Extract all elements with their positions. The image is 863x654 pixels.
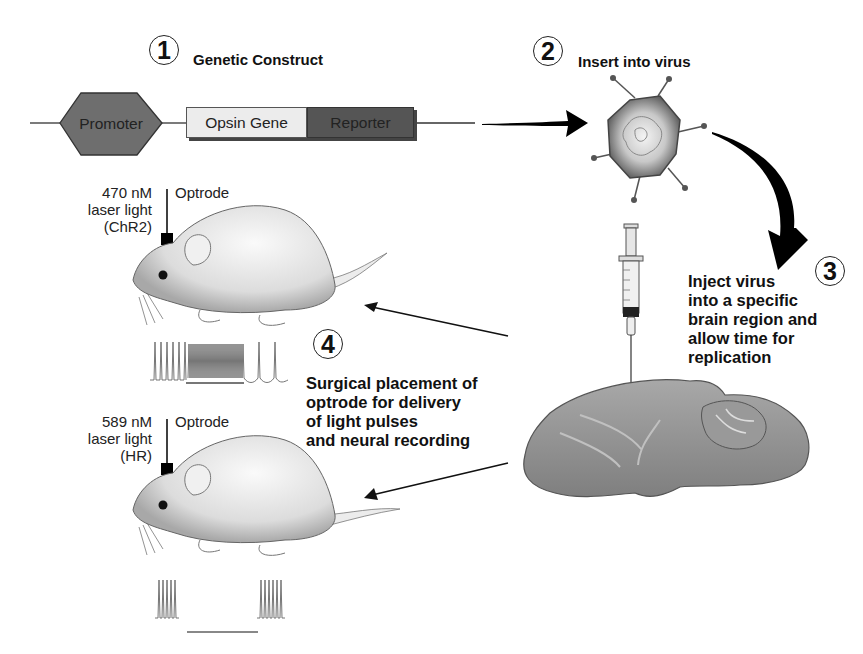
virus-icon [580, 72, 720, 212]
step-2-badge: 2 [533, 36, 563, 66]
mouse-top-light-bar [186, 382, 244, 384]
mouse-bottom-spike-train [153, 578, 293, 628]
brain-illustration [520, 375, 820, 515]
step-2-number: 2 [541, 39, 555, 64]
step-3-number: 3 [823, 259, 837, 284]
mouse-top-illustration [125, 185, 405, 325]
mouse-bottom-light-bar [187, 631, 258, 633]
step-2-title: Insert into virus [578, 53, 691, 70]
step-4-number: 4 [321, 332, 335, 357]
mouse-bottom-illustration [125, 415, 415, 555]
reporter-box: Reporter [307, 107, 414, 138]
promoter-label: Promoter [62, 112, 160, 136]
step-4-badge: 4 [313, 329, 343, 359]
arrow-virus-to-injection-icon [710, 128, 830, 288]
opsin-gene-box: Opsin Gene [186, 107, 307, 138]
step-3-description: Inject virus into a specific brain regio… [688, 272, 817, 367]
step-3-badge: 3 [815, 256, 845, 286]
